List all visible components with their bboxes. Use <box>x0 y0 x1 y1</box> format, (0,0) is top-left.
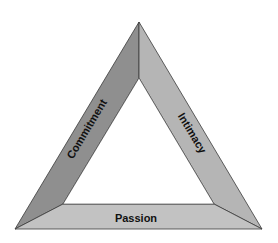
passion-label: Passion <box>115 212 157 224</box>
love-triangle-diagram: Commitment Intimacy Passion <box>0 0 278 243</box>
